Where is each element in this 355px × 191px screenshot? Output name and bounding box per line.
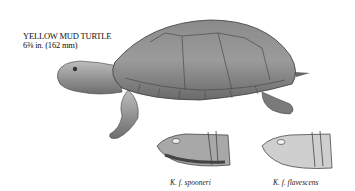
illustration-page: YELLOW MUD TURTLE 6⅜ in. (162 mm) K. f. … <box>0 0 355 191</box>
species-label: YELLOW MUD TURTLE 6⅜ in. (162 mm) <box>23 32 111 50</box>
shell <box>113 20 296 100</box>
head <box>57 61 122 94</box>
front-leg <box>110 90 139 139</box>
turtle-illustration <box>0 0 355 191</box>
species-size: 6⅜ in. (162 mm) <box>23 41 111 50</box>
rear-leg <box>262 92 293 114</box>
head-sketch-spooneri <box>157 131 230 166</box>
head-sketch-flavescens <box>262 131 332 169</box>
eye <box>73 67 77 71</box>
caption-spooneri: K. f. spooneri <box>170 178 211 187</box>
caption-flavescens: K. f. flavescens <box>273 178 318 187</box>
